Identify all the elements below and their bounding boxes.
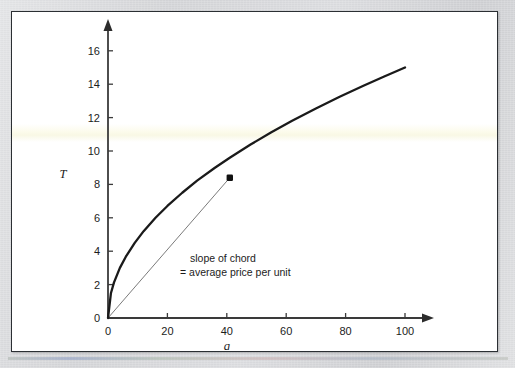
chord-line <box>108 178 230 318</box>
slope-of-chord-annotation: slope of chord = average price per unit <box>180 252 291 278</box>
y-tick-label: 16 <box>88 45 100 57</box>
x-axis-tick-labels: 0 20 40 60 80 100 <box>105 325 414 337</box>
x-tick-label: 20 <box>161 325 173 337</box>
chart-plot: 0 2 4 6 8 10 12 14 16 0 <box>12 12 496 350</box>
annotation-line-2: = average price per unit <box>180 266 291 278</box>
y-tick-label: 12 <box>88 112 100 124</box>
x-tick-label: 60 <box>280 325 292 337</box>
figure-frame: 0 2 4 6 8 10 12 14 16 0 <box>11 11 498 352</box>
x-tick-label: 40 <box>221 325 233 337</box>
y-tick-label: 0 <box>94 312 100 324</box>
y-tick-label: 2 <box>94 279 100 291</box>
screenshot-root: 0 2 4 6 8 10 12 14 16 0 <box>0 0 515 368</box>
y-axis-arrow-icon <box>104 19 113 31</box>
x-tick-label: 80 <box>339 325 351 337</box>
x-tick-label: 0 <box>105 325 111 337</box>
y-tick-label: 14 <box>88 78 100 90</box>
y-axis-label: T <box>60 167 68 181</box>
y-tick-label: 10 <box>88 145 100 157</box>
y-axis-tick-labels: 0 2 4 6 8 10 12 14 16 <box>88 45 100 324</box>
x-axis-label: q <box>224 339 230 350</box>
total-outlay-curve <box>108 68 405 319</box>
y-tick-label: 8 <box>94 178 100 190</box>
scan-fringe-strip <box>8 357 508 360</box>
chord-endpoint-marker <box>227 175 233 181</box>
y-tick-label: 6 <box>94 212 100 224</box>
x-tick-label: 100 <box>396 325 414 337</box>
y-tick-label: 4 <box>94 245 100 257</box>
x-axis-arrow-icon <box>422 314 434 323</box>
annotation-line-1: slope of chord <box>190 252 256 264</box>
